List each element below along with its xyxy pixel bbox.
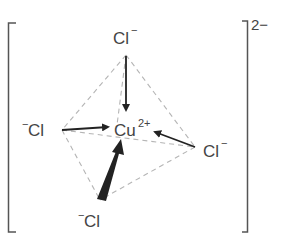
bond-left-arrow xyxy=(62,127,108,130)
ligand-right-symbol: Cl xyxy=(203,142,219,161)
bond-bottom-arrowhead xyxy=(112,139,124,155)
ligand-bottom: − Cl xyxy=(78,209,100,231)
ligand-left-symbol: Cl xyxy=(28,121,44,140)
bond-right-arrow xyxy=(155,132,195,147)
center-symbol: Cu xyxy=(114,121,136,140)
center-charge: 2+ xyxy=(138,117,151,129)
overall-charge: 2− xyxy=(251,16,268,33)
complex-ion-diagram: Cl − − Cl Cu 2+ Cl − − Cl 2− xyxy=(0,0,292,244)
central-metal: Cu 2+ xyxy=(114,117,151,140)
bond-bottom-wedge xyxy=(97,149,120,201)
left-bracket xyxy=(9,23,17,232)
ligand-right: Cl − xyxy=(203,137,227,161)
ligand-bottom-symbol: Cl xyxy=(84,212,100,231)
right-bracket xyxy=(242,21,248,232)
ligand-left: − Cl xyxy=(22,118,44,140)
ligand-top-symbol: Cl xyxy=(113,29,129,48)
ligand-top-charge: − xyxy=(131,24,137,36)
ligand-top: Cl − xyxy=(113,24,137,48)
ligand-right-charge: − xyxy=(221,137,227,149)
